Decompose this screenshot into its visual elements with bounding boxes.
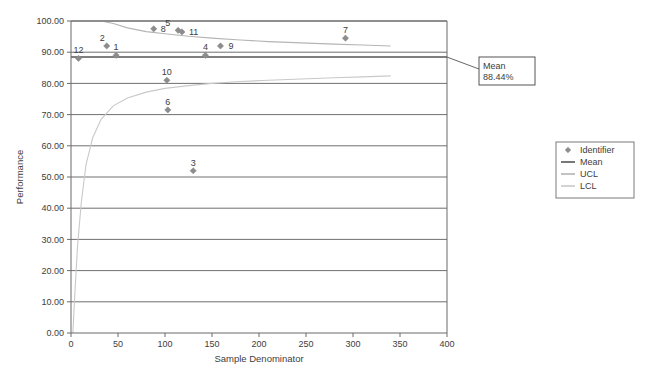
x-tick-label: 200 bbox=[251, 339, 266, 349]
legend-item-label: UCL bbox=[580, 169, 598, 179]
y-tick-label: 20.00 bbox=[41, 266, 64, 276]
identifier-label: 4 bbox=[203, 42, 208, 52]
y-tick-label: 60.00 bbox=[41, 141, 64, 151]
y-tick-label: 50.00 bbox=[41, 172, 64, 182]
x-tick-label: 350 bbox=[392, 339, 407, 349]
identifier-label: 1 bbox=[114, 42, 119, 52]
x-tick-label: 400 bbox=[439, 339, 454, 349]
y-tick-label: 100.00 bbox=[36, 16, 64, 26]
mean-annotation-line1: Mean bbox=[483, 61, 506, 71]
identifier-label: 5 bbox=[165, 18, 170, 28]
identifier-label: 10 bbox=[162, 67, 172, 77]
legend-item-label: Identifier bbox=[580, 145, 615, 155]
y-tick-label: 80.00 bbox=[41, 79, 64, 89]
identifier-label: 9 bbox=[228, 41, 233, 51]
identifier-label: 11 bbox=[189, 27, 198, 37]
x-tick-label: 250 bbox=[298, 339, 313, 349]
x-axis-title: Sample Denominator bbox=[214, 353, 303, 364]
mean-annotation-box: Mean88.44% bbox=[447, 57, 535, 85]
y-tick-label: 10.00 bbox=[41, 297, 64, 307]
chart-container: 0.0010.0020.0030.0040.0050.0060.0070.008… bbox=[0, 0, 645, 380]
identifier-label: 12 bbox=[74, 45, 84, 55]
y-tick-label: 40.00 bbox=[41, 203, 64, 213]
y-axis-title: Performance bbox=[14, 150, 25, 204]
x-tick-label: 0 bbox=[68, 339, 73, 349]
identifier-label: 7 bbox=[343, 25, 348, 35]
x-tick-label: 300 bbox=[345, 339, 360, 349]
x-tick-label: 150 bbox=[204, 339, 219, 349]
identifier-label: 6 bbox=[165, 97, 170, 107]
legend: IdentifierMeanUCLLCL bbox=[556, 142, 634, 198]
mean-annotation-line2: 88.44% bbox=[483, 72, 514, 82]
y-tick-label: 90.00 bbox=[41, 47, 64, 57]
y-tick-label: 0.00 bbox=[46, 328, 64, 338]
scatter-chart: 0.0010.0020.0030.0040.0050.0060.0070.008… bbox=[0, 0, 645, 380]
x-tick-label: 50 bbox=[113, 339, 123, 349]
identifier-label: 2 bbox=[100, 33, 105, 43]
mean-annotation-leader bbox=[447, 57, 479, 69]
y-tick-label: 30.00 bbox=[41, 235, 64, 245]
legend-item-label: LCL bbox=[580, 181, 597, 191]
legend-item-label: Mean bbox=[580, 157, 603, 167]
x-tick-label: 100 bbox=[157, 339, 172, 349]
y-tick-label: 70.00 bbox=[41, 110, 64, 120]
identifier-label: 3 bbox=[191, 158, 196, 168]
